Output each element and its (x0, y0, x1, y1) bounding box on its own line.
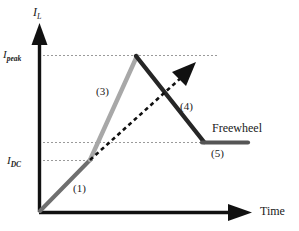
annotation-stage-3: (3) (96, 86, 109, 97)
y-tick-ipeak-subscript: peak (7, 54, 22, 63)
y-tick-idc-subscript: DC (11, 160, 21, 169)
annotation-freewheel: Freewheel (212, 122, 262, 134)
average-trend-arrowhead (172, 62, 196, 86)
chart-canvas (0, 0, 299, 231)
y-axis-label-subscript: L (37, 12, 41, 21)
inductor-current-waveform-figure: IL Time Ipeak IDC (1) (3) (4) (5) Freewh… (0, 0, 299, 231)
x-axis-arrowhead (228, 204, 252, 221)
waveform-segment-4 (136, 56, 204, 142)
y-axis-label: IL (33, 6, 41, 18)
x-axis-label: Time (260, 205, 285, 217)
annotation-stage-5: (5) (211, 148, 224, 159)
y-tick-label-idc: IDC (7, 155, 21, 166)
y-tick-label-ipeak: Ipeak (3, 49, 21, 60)
waveform-segment-3 (90, 56, 137, 160)
y-axis-arrowhead (32, 23, 48, 45)
annotation-stage-4: (4) (180, 101, 193, 112)
annotation-stage-1: (1) (73, 183, 86, 194)
